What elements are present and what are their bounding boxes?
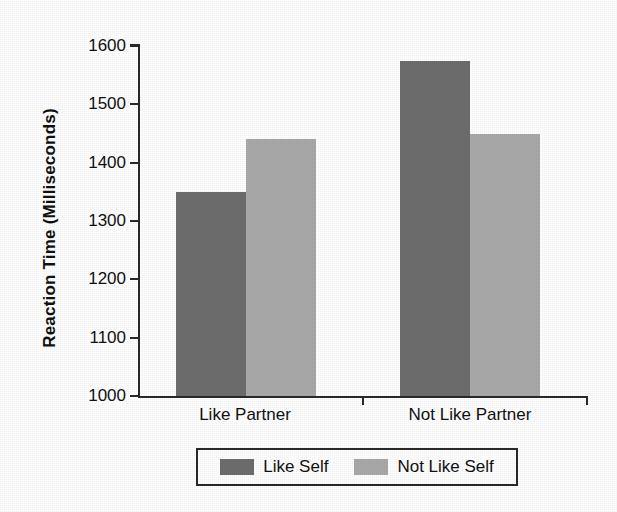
y-axis-tick-label: 1200 bbox=[60, 269, 126, 289]
x-axis-category-label: Not Like Partner bbox=[360, 405, 580, 425]
legend-label: Not Like Self bbox=[397, 457, 493, 477]
bar-like-partner-like-self bbox=[176, 192, 246, 396]
legend-swatch-icon bbox=[354, 459, 388, 475]
bar-not-like-partner-not-like-self bbox=[470, 134, 540, 397]
legend-entry: Like Self bbox=[220, 457, 328, 477]
y-axis-tick-label: 1400 bbox=[60, 153, 126, 173]
y-axis-tick-label: 1100 bbox=[60, 328, 126, 348]
y-axis-tick-label: 1600 bbox=[60, 36, 126, 56]
legend-entry: Not Like Self bbox=[354, 457, 493, 477]
y-axis-tick-label: 1000 bbox=[60, 386, 126, 406]
bar-like-partner-not-like-self bbox=[246, 139, 316, 396]
legend-swatch-icon bbox=[220, 459, 254, 475]
bar-not-like-partner-like-self bbox=[400, 61, 470, 396]
x-axis-right-cap bbox=[586, 396, 588, 405]
y-axis-tick-label: 1500 bbox=[60, 94, 126, 114]
legend-label: Like Self bbox=[263, 457, 328, 477]
bars-layer bbox=[138, 46, 588, 396]
bar-chart-figure: Reaction Time (Milliseconds) 16001500140… bbox=[0, 0, 617, 512]
x-axis-category-label: Like Partner bbox=[135, 405, 355, 425]
chart-legend: Like SelfNot Like Self bbox=[196, 448, 518, 486]
y-axis-tick-label: 1300 bbox=[60, 211, 126, 231]
x-axis-group-divider-tick bbox=[362, 396, 364, 405]
y-axis-title: Reaction Time (Milliseconds) bbox=[40, 28, 60, 428]
